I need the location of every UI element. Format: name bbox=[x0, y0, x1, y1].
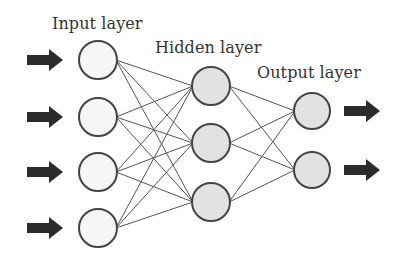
input-node bbox=[79, 41, 117, 79]
connection-edge bbox=[229, 111, 295, 202]
arrow-right-icon bbox=[344, 100, 380, 122]
arrow-right-icon bbox=[27, 161, 63, 183]
neural-network-diagram: Input layer Hidden layer Output layer bbox=[0, 0, 404, 258]
connection-edge bbox=[116, 86, 193, 228]
connection-edge bbox=[229, 111, 295, 143]
hidden-node bbox=[192, 67, 230, 105]
input-node bbox=[79, 98, 117, 136]
connection-edge bbox=[116, 172, 193, 202]
input-node bbox=[79, 153, 117, 191]
arrow-right-icon bbox=[344, 159, 380, 181]
arrow-right-icon bbox=[27, 217, 63, 239]
hidden-layer-label: Hidden layer bbox=[155, 38, 261, 57]
output-layer-label: Output layer bbox=[257, 63, 361, 82]
arrow-right-icon bbox=[27, 49, 63, 71]
connection-edge bbox=[229, 170, 295, 202]
connection-edge bbox=[116, 86, 193, 117]
input-node bbox=[79, 209, 117, 247]
arrow-right-icon bbox=[27, 106, 63, 128]
input-layer-label: Input layer bbox=[52, 14, 143, 33]
hidden-node bbox=[192, 124, 230, 162]
output-node bbox=[294, 93, 330, 129]
hidden-node bbox=[192, 183, 230, 221]
output-node bbox=[294, 152, 330, 188]
